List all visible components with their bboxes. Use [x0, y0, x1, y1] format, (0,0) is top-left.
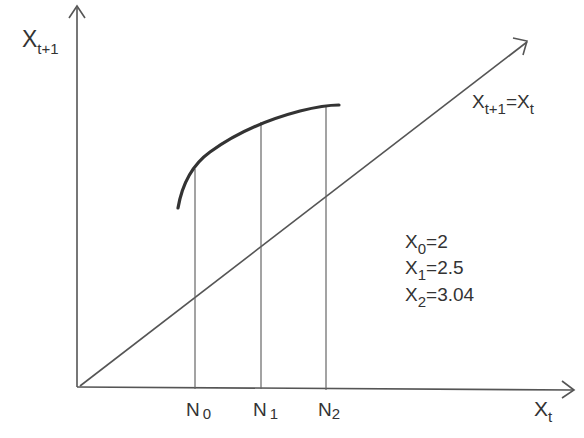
value-x2-sub: 2 — [418, 293, 426, 310]
value-x2-main: X — [405, 284, 418, 305]
value-x1-rest: =2.5 — [426, 257, 464, 278]
x-axis-label-sub: t — [548, 408, 552, 425]
tick-n0-sub: 0 — [203, 405, 211, 422]
tick-n0-main: N — [186, 399, 200, 420]
x-axis — [77, 387, 573, 390]
cobweb-diagram — [0, 0, 584, 438]
tick-label-n0: N0 — [186, 400, 211, 419]
identity-label-main1: X — [472, 91, 485, 112]
value-x1-main: X — [405, 257, 418, 278]
value-x0-rest: =2 — [426, 231, 448, 252]
identity-label-main2: X — [517, 91, 530, 112]
tick-label-n2: N2 — [318, 400, 340, 419]
tick-n1-main: N — [253, 399, 267, 420]
value-x2: X2=3.04 — [405, 285, 474, 304]
y-axis-label: Xt+1 — [22, 28, 59, 51]
tick-label-n1: N1 — [253, 400, 278, 419]
tick-n2-sub: 2 — [332, 405, 340, 422]
x-axis-label-main: X — [534, 397, 548, 420]
y-axis-label-main: X — [22, 26, 37, 52]
value-x1-sub: 1 — [418, 266, 426, 283]
value-x1: X1=2.5 — [405, 258, 464, 277]
value-x0: X0=2 — [405, 232, 448, 251]
identity-line-label: Xt+1=Xt — [472, 92, 534, 111]
tick-n2-main: N — [318, 399, 332, 420]
tick-n1-sub: 1 — [270, 405, 278, 422]
y-axis-label-sub: t+1 — [37, 40, 58, 57]
identity-line — [80, 42, 527, 386]
value-x0-main: X — [405, 231, 418, 252]
map-curve — [178, 105, 339, 208]
value-x2-rest: =3.04 — [426, 284, 474, 305]
identity-label-eq: = — [506, 91, 517, 112]
identity-label-sub2: t — [530, 100, 534, 117]
x-axis-label: Xt — [534, 398, 552, 419]
value-x0-sub: 0 — [418, 240, 426, 257]
identity-label-sub1: t+1 — [485, 100, 506, 117]
